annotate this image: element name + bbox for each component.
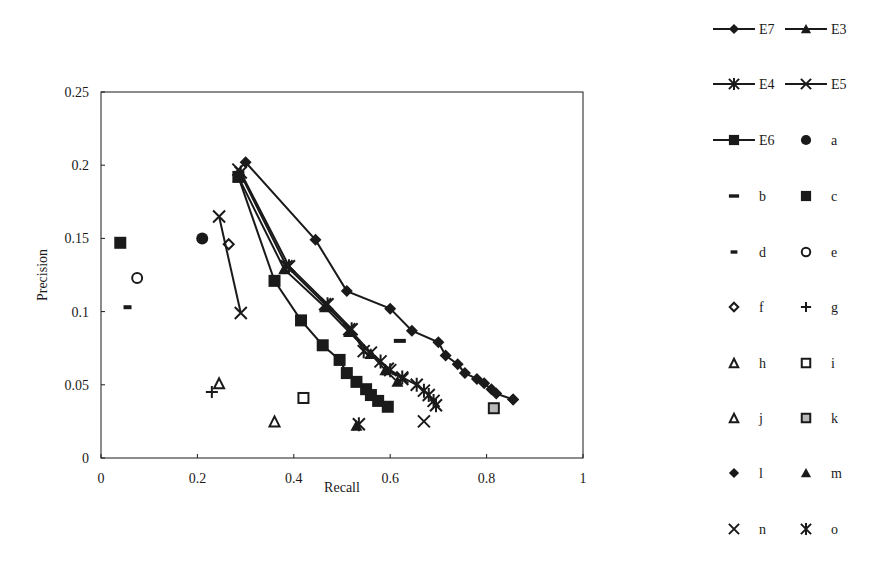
legend-item-f: f <box>730 300 764 315</box>
x-tick-label: 0.2 <box>189 471 207 486</box>
legend-item-k: k <box>802 411 838 426</box>
legend-item-e6: E6 <box>713 133 775 148</box>
series-e7 <box>240 156 520 405</box>
x-axis-title: Recall <box>324 480 360 495</box>
x-tick-label: 0.8 <box>478 471 496 486</box>
precision-recall-chart: 00.20.40.60.81 00.050.10.150.20.25 Recal… <box>0 0 875 561</box>
series-n-cluster <box>213 210 247 319</box>
x-tick-label: 0 <box>98 471 105 486</box>
legend-label: b <box>759 189 766 204</box>
x-tick-label: 0.4 <box>285 471 303 486</box>
y-tick-label: 0.2 <box>72 158 90 173</box>
legend-item-c: c <box>801 189 837 204</box>
legend-label: E3 <box>831 22 847 37</box>
legend-label: c <box>831 189 837 204</box>
y-tick-label: 0 <box>82 451 89 466</box>
legend-label: m <box>831 466 842 481</box>
legend-item-l: l <box>729 466 763 481</box>
legend-label: E6 <box>759 133 775 148</box>
legend-item-d: d <box>731 245 766 260</box>
y-tick-label: 0.15 <box>65 231 90 246</box>
series-l <box>507 393 519 405</box>
series-i <box>298 393 308 403</box>
legend-label: a <box>831 133 838 148</box>
legend-label: o <box>831 522 838 537</box>
legend-label: k <box>831 411 838 426</box>
y-tick-label: 0.05 <box>65 378 90 393</box>
legend-label: g <box>831 300 838 315</box>
legend-item-e7: E7 <box>713 22 775 37</box>
series-d <box>124 305 132 309</box>
series-layer <box>114 156 519 431</box>
legend-label: l <box>759 466 763 481</box>
series-c <box>114 237 126 249</box>
legend-item-e: e <box>802 245 837 260</box>
legend-item-e3: E3 <box>785 22 847 37</box>
series-a <box>196 232 208 244</box>
legend: E7E3E4E5E6abcdefghijklmno <box>713 22 847 537</box>
series-e4 <box>235 166 442 413</box>
legend-item-n: n <box>729 522 766 537</box>
legend-label: j <box>758 411 763 426</box>
y-axis: 00.050.10.150.20.25 <box>65 85 106 466</box>
series-h <box>214 378 224 388</box>
y-axis-title: Precision <box>35 249 50 301</box>
legend-label: d <box>759 245 766 260</box>
series-j <box>270 416 280 426</box>
legend-label: e <box>831 245 837 260</box>
y-tick-label: 0.25 <box>65 85 90 100</box>
series-e <box>132 273 142 283</box>
legend-item-j: j <box>730 411 763 426</box>
legend-label: n <box>759 522 766 537</box>
series-e3 <box>232 171 403 387</box>
series-e5 <box>232 164 408 385</box>
series-k <box>489 403 499 413</box>
legend-item-m: m <box>801 466 842 481</box>
y-tick-label: 0.1 <box>72 305 90 320</box>
legend-item-e4: E4 <box>713 77 775 92</box>
series-n <box>418 415 430 427</box>
legend-label: f <box>759 300 764 315</box>
legend-label: E5 <box>831 77 847 92</box>
plot-frame <box>101 92 583 458</box>
x-tick-label: 1 <box>580 471 587 486</box>
legend-item-b: b <box>729 189 766 204</box>
legend-label: i <box>831 356 835 371</box>
legend-item-a: a <box>801 133 838 148</box>
legend-label: E7 <box>759 22 775 37</box>
legend-item-i: i <box>802 356 835 371</box>
legend-item-h: h <box>730 356 766 371</box>
legend-item-o: o <box>801 522 838 537</box>
series-b <box>394 339 406 343</box>
legend-item-e5: E5 <box>785 77 847 92</box>
legend-item-g: g <box>801 300 838 315</box>
legend-label: h <box>759 356 766 371</box>
x-tick-label: 0.6 <box>381 471 399 486</box>
legend-label: E4 <box>759 77 775 92</box>
